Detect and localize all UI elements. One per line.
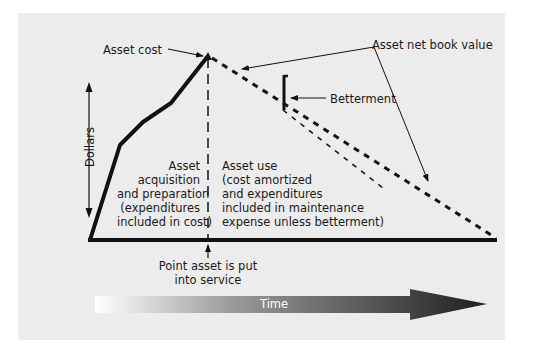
- asset-use-line: Asset use: [222, 159, 384, 173]
- in-service-line-2: into service: [148, 273, 268, 287]
- asset-use-line: expense unless betterment): [222, 215, 384, 229]
- asset-net-book-value-label: Asset net book value: [372, 38, 493, 52]
- acquisition-line: included in cost): [117, 215, 200, 229]
- in-service-line-1: Point asset is put: [148, 259, 268, 273]
- acquisition-region-text: Asset acquisition and preparation (expen…: [117, 159, 200, 229]
- time-arrow: [95, 289, 487, 320]
- acquisition-line: Asset: [117, 159, 200, 173]
- time-label: Time: [260, 297, 288, 311]
- in-service-label: Point asset is put into service: [148, 259, 268, 287]
- acquisition-line: acquisition: [117, 173, 200, 187]
- peak-marker: [204, 52, 212, 60]
- asset-use-region-text: Asset use (cost amortized and expenditur…: [222, 159, 384, 229]
- betterment-label: Betterment: [330, 92, 396, 106]
- acquisition-line: (expenditures: [117, 201, 200, 215]
- asset-use-line: included in maintenance: [222, 201, 384, 215]
- dollars-axis-label: Dollars: [83, 117, 97, 177]
- asset-use-line: (cost amortized: [222, 173, 384, 187]
- asset-use-line: and expenditures: [222, 187, 384, 201]
- asset-cost-label: Asset cost: [103, 43, 162, 57]
- asset-cost-pointer: [168, 49, 203, 56]
- acquisition-line: and preparation: [117, 187, 200, 201]
